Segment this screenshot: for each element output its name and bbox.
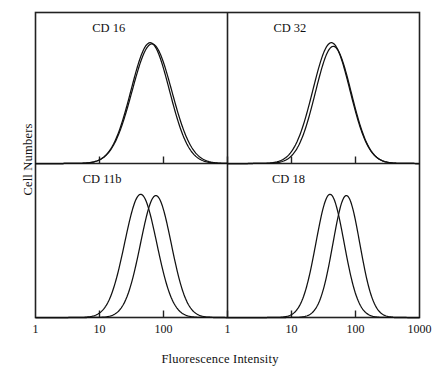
curve-dashed (36, 44, 228, 164)
curve-dashed (228, 196, 420, 318)
x-axis-title: Fluorescence Intensity (0, 352, 440, 367)
plot-canvas (0, 0, 440, 374)
panel-label-cd18: CD 18 (272, 172, 305, 187)
panel-label-cd11b: CD 11b (83, 172, 122, 187)
x-tick-label: 100 (332, 322, 380, 337)
x-tick-label: 10 (268, 322, 316, 337)
x-tick-label: 1000 (396, 322, 440, 337)
panel-label-cd32: CD 32 (273, 21, 306, 36)
x-tick-label: 1 (204, 322, 252, 337)
curve-solid (36, 194, 228, 317)
curve-solid (228, 194, 420, 317)
curve-dashed (228, 46, 420, 163)
x-tick-label: 10 (76, 322, 124, 337)
flow-cytometry-figure: CD 16 CD 32 CD 11b CD 18 110100110100100… (0, 0, 440, 374)
plot-frame (36, 13, 420, 318)
curve-solid (36, 43, 228, 164)
panel-label-cd16: CD 16 (92, 21, 125, 36)
x-tick-label: 1 (12, 322, 60, 337)
y-axis-title: Cell Numbers (21, 80, 36, 240)
x-tick-label: 100 (140, 322, 188, 337)
